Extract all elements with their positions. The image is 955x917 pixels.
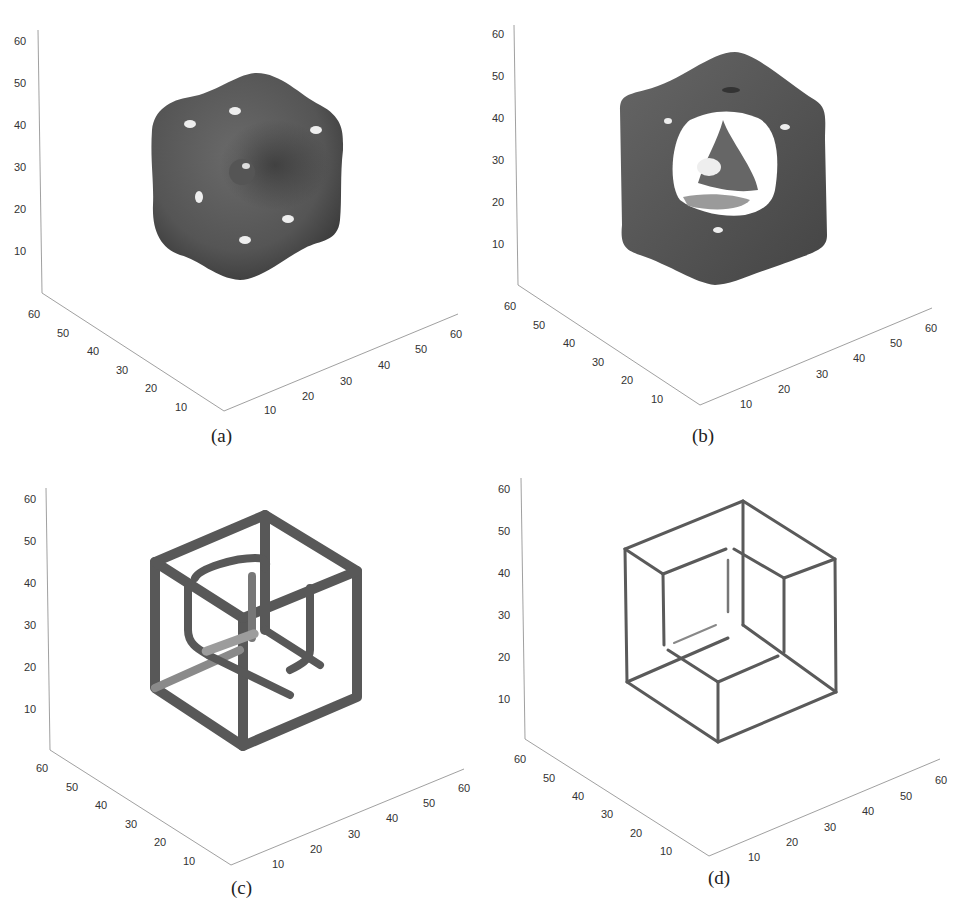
svg-text:40: 40 [853,352,865,364]
svg-text:60: 60 [36,762,48,774]
svg-text:20: 20 [24,661,36,673]
svg-text:40: 40 [498,567,510,579]
y-axis-ticks: 60 50 40 30 20 10 [28,308,187,413]
x-axis-ticks: 10 20 30 40 50 60 [264,328,462,416]
svg-text:60: 60 [458,782,470,794]
caption-b: (b) [692,425,714,447]
svg-text:10: 10 [651,393,663,405]
svg-text:50: 50 [492,70,504,82]
svg-text:10: 10 [14,245,26,257]
panel-a: 60 50 40 30 20 10 60 50 40 30 20 10 10 2… [0,0,477,458]
svg-text:10: 10 [748,851,760,863]
panel-c: 60 50 40 30 20 10 60 50 40 30 20 10 10 2… [0,460,477,917]
caption-c: (c) [231,877,252,899]
svg-text:60: 60 [28,308,40,320]
svg-text:50: 50 [498,525,510,537]
svg-text:60: 60 [498,483,510,495]
svg-text:10: 10 [264,404,276,416]
svg-text:40: 40 [87,345,99,357]
svg-text:20: 20 [14,203,26,215]
svg-text:40: 40 [95,799,107,811]
svg-text:50: 50 [24,535,36,547]
svg-text:30: 30 [498,609,510,621]
svg-text:60: 60 [14,35,26,47]
svg-text:10: 10 [183,855,195,867]
svg-text:60: 60 [24,493,36,505]
axes-3d-b: 60 50 40 30 20 10 60 50 40 30 20 10 10 2… [480,0,955,458]
svg-text:30: 30 [125,818,137,830]
svg-text:40: 40 [14,119,26,131]
svg-text:30: 30 [601,808,613,820]
svg-text:60: 60 [492,28,504,40]
svg-text:50: 50 [57,327,69,339]
svg-text:30: 30 [592,356,604,368]
svg-text:10: 10 [498,693,510,705]
svg-text:10: 10 [740,398,752,410]
svg-text:40: 40 [563,337,575,349]
svg-text:30: 30 [824,821,836,833]
panel-d: 60 50 40 30 20 10 60 50 40 30 20 10 10 2… [480,460,955,917]
svg-text:20: 20 [492,196,504,208]
svg-text:20: 20 [145,382,157,394]
svg-text:20: 20 [786,836,798,848]
svg-text:40: 40 [492,112,504,124]
svg-text:60: 60 [504,300,516,312]
svg-text:20: 20 [154,836,166,848]
svg-text:50: 50 [890,337,902,349]
axes-3d-c: 60 50 40 30 20 10 60 50 40 30 20 10 10 2… [0,460,477,917]
axes-3d-d: 60 50 40 30 20 10 60 50 40 30 20 10 10 2… [480,460,955,917]
svg-text:60: 60 [925,322,937,334]
svg-text:30: 30 [348,828,360,840]
svg-text:10: 10 [175,401,187,413]
svg-text:40: 40 [862,805,874,817]
svg-text:50: 50 [900,790,912,802]
svg-text:10: 10 [492,238,504,250]
svg-text:20: 20 [621,374,633,386]
svg-text:40: 40 [386,812,398,824]
svg-text:30: 30 [816,368,828,380]
svg-text:20: 20 [498,651,510,663]
svg-text:50: 50 [423,797,435,809]
caption-a: (a) [211,425,232,447]
svg-text:30: 30 [116,364,128,376]
blob-surface [151,73,343,280]
svg-text:50: 50 [66,781,78,793]
svg-text:50: 50 [415,343,427,355]
svg-text:10: 10 [24,703,36,715]
svg-text:10: 10 [272,858,284,870]
panel-b: 60 50 40 30 20 10 60 50 40 30 20 10 10 2… [480,0,955,458]
svg-text:50: 50 [14,77,26,89]
svg-text:60: 60 [935,774,947,786]
svg-text:30: 30 [492,154,504,166]
svg-text:20: 20 [630,827,642,839]
svg-text:50: 50 [543,772,555,784]
svg-text:20: 20 [310,843,322,855]
svg-text:30: 30 [14,161,26,173]
svg-text:30: 30 [24,619,36,631]
svg-text:30: 30 [340,375,352,387]
svg-text:20: 20 [302,390,314,402]
caption-d: (d) [708,867,730,889]
svg-text:40: 40 [24,577,36,589]
cube-shell [620,52,827,285]
svg-text:40: 40 [572,790,584,802]
svg-text:40: 40 [378,359,390,371]
wire-frame [625,501,836,742]
svg-text:20: 20 [778,383,790,395]
axes-3d-a: 60 50 40 30 20 10 60 50 40 30 20 10 10 2… [0,0,477,458]
svg-text:10: 10 [660,845,672,857]
svg-text:60: 60 [450,328,462,340]
svg-text:50: 50 [533,319,545,331]
z-axis-ticks: 60 50 40 30 20 10 [14,35,26,257]
svg-text:60: 60 [514,753,526,765]
